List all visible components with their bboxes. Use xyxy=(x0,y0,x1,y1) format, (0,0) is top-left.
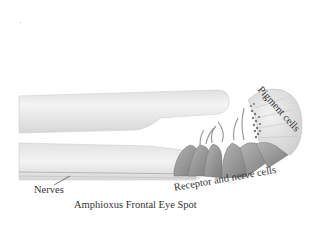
lower-tube xyxy=(19,143,196,180)
upper-tube xyxy=(19,90,229,133)
figure-caption: Amphioxus Frontal Eye Spot xyxy=(74,199,197,210)
label-nerves: Nerves xyxy=(34,184,64,195)
